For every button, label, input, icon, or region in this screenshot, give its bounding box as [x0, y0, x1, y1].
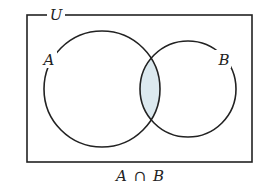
- caption-set-b: B: [152, 167, 164, 185]
- venn-diagram: U A B A ∩ B: [0, 0, 263, 189]
- universe-label: U: [50, 6, 64, 24]
- caption: A ∩ B: [114, 167, 164, 185]
- set-b-label: B: [217, 51, 229, 69]
- set-a-label: A: [42, 51, 55, 69]
- caption-set-a: A: [114, 167, 127, 185]
- caption-operator: ∩: [134, 167, 147, 185]
